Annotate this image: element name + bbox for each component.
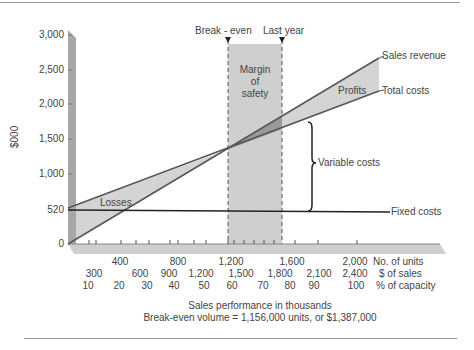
last-year-label: Last year	[263, 25, 304, 37]
y-tick-1000: 1,000	[24, 168, 64, 180]
sales-tick-1800: 1,800	[263, 268, 297, 280]
sales-tick-900: 900	[155, 268, 183, 280]
sales-tick-1500: 1,500	[224, 268, 258, 280]
margin-label-line1: Margin	[228, 64, 282, 76]
margin-label-line3: safety	[228, 88, 282, 100]
capacity-tick-100: 100	[344, 280, 368, 292]
variable-costs-brace	[308, 122, 316, 211]
units-tick-2000: 2,000	[338, 256, 372, 268]
units-tick-400: 400	[106, 256, 134, 268]
capacity-tick-40: 40	[164, 280, 184, 292]
break-even-label: Break - even	[195, 25, 252, 37]
fixed-costs-label: Fixed costs	[391, 206, 442, 218]
last-year-arrow-icon	[279, 37, 285, 43]
sales-revenue-label: Sales revenue	[382, 50, 446, 62]
capacity-tick-80: 80	[280, 280, 300, 292]
capacity-axis-name: % of capacity	[376, 280, 435, 292]
units-tick-1200: 1,200	[214, 256, 248, 268]
units-axis-name: No. of units	[373, 256, 424, 268]
total-costs-line	[68, 91, 379, 208]
y-tick-0: 0	[24, 238, 64, 250]
sales-axis-name: $ of sales	[379, 268, 422, 280]
units-tick-800: 800	[164, 256, 192, 268]
capacity-tick-60: 60	[222, 280, 242, 292]
margin-label-line2: of	[228, 76, 282, 88]
capacity-tick-20: 20	[109, 280, 129, 292]
sales-tick-300: 300	[80, 268, 108, 280]
break-even-caption: Break-even volume = 1,156,000 units, or …	[100, 312, 420, 324]
profits-label: Profits	[338, 85, 366, 97]
x-axis-bar	[68, 244, 446, 254]
sales-tick-2100: 2,100	[302, 268, 336, 280]
x-axis-title: Sales performance in thousands	[100, 300, 420, 312]
y-tick-2500: 2,500	[24, 64, 64, 76]
units-tick-1600: 1,600	[275, 256, 309, 268]
capacity-tick-10: 10	[78, 280, 98, 292]
y-tick-2000: 2,000	[24, 98, 64, 110]
capacity-tick-50: 50	[194, 280, 214, 292]
y-tick-520: 520	[24, 204, 64, 216]
capacity-tick-70: 70	[253, 280, 273, 292]
y-tick-3000: 3,000	[24, 29, 64, 41]
losses-label: Losses	[100, 197, 132, 209]
x-ticks	[89, 240, 357, 244]
break-even-arrow-icon	[225, 37, 231, 43]
capacity-tick-90: 90	[304, 280, 324, 292]
sales-revenue-line	[68, 58, 379, 244]
y-axis-unit-label: $000	[9, 126, 21, 148]
total-costs-label: Total costs	[382, 85, 429, 97]
y-tick-1500: 1,500	[24, 133, 64, 145]
sales-tick-2400: 2,400	[338, 268, 372, 280]
sales-tick-1200: 1,200	[184, 268, 218, 280]
variable-costs-label: Variable costs	[318, 157, 380, 169]
sales-tick-600: 600	[126, 268, 154, 280]
capacity-tick-30: 30	[137, 280, 157, 292]
